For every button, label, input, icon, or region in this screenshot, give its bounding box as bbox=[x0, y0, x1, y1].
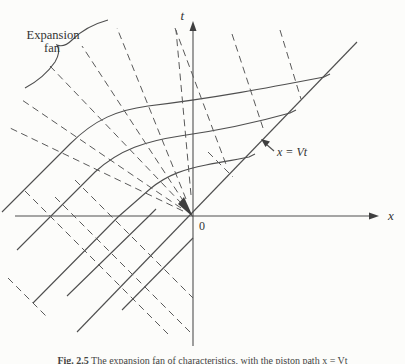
figure-caption: Fig. 2.5 The expansion fan of characteri… bbox=[0, 355, 405, 364]
figure-caption-text: The expansion fan of characteristics, wi… bbox=[89, 355, 348, 364]
figure-page: t x 0 Expansion fan x = Vt Fig. 2.5 The … bbox=[0, 0, 405, 364]
upper-dashed-line-1 bbox=[175, 28, 227, 167]
fan-ray-5 bbox=[117, 28, 186, 199]
characteristic-curve-c bbox=[33, 154, 255, 303]
fan-ray-3 bbox=[50, 66, 182, 204]
lower-dashed-line-2 bbox=[75, 180, 193, 298]
fan-ray-2 bbox=[22, 100, 181, 208]
characteristic-curve-a bbox=[2, 74, 330, 212]
origin-label: 0 bbox=[199, 219, 205, 233]
figure-caption-number: Fig. 2.5 bbox=[57, 355, 88, 364]
expansion-fan-label-line1: Expansion bbox=[27, 28, 81, 42]
lower-dashed-line-3 bbox=[55, 197, 190, 332]
upper-dashed-line-3 bbox=[280, 30, 301, 99]
expansion-fan-label-line2: fan bbox=[44, 41, 61, 55]
characteristic-curve-b bbox=[17, 110, 296, 250]
x-equals-vt-label: x = Vt bbox=[276, 145, 308, 159]
upper-dashed-line-2 bbox=[232, 34, 263, 128]
characteristics-diagram: t x 0 Expansion fan x = Vt bbox=[0, 0, 405, 364]
vt-pointer-line bbox=[266, 144, 274, 151]
x-axis-label: x bbox=[387, 208, 394, 223]
t-axis-arrowhead bbox=[190, 21, 197, 31]
x-equals-vt-line bbox=[77, 42, 357, 332]
short-dashed-segment bbox=[208, 152, 233, 177]
x-axis-arrowhead bbox=[369, 213, 379, 220]
figure-lines bbox=[2, 20, 379, 346]
t-axis-label: t bbox=[180, 8, 184, 23]
lower-dashed-line-4 bbox=[8, 278, 48, 318]
fan-ray-4 bbox=[82, 46, 184, 202]
